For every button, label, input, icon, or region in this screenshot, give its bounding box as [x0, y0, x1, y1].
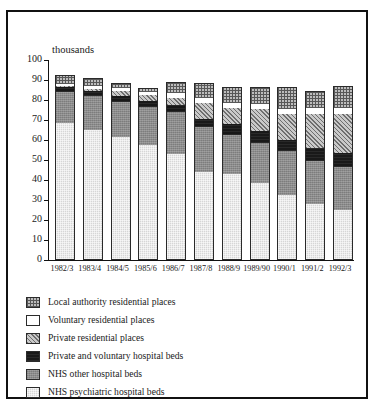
bar-segment[interactable]: [55, 87, 75, 92]
bar-segment[interactable]: [55, 75, 75, 84]
bar-segment[interactable]: [55, 92, 75, 123]
y-tick-label: 50: [18, 153, 42, 165]
bar-segment[interactable]: [111, 83, 131, 88]
y-tick-mark: [44, 120, 49, 121]
y-tick-label: 40: [18, 173, 42, 185]
bar-segment[interactable]: [138, 145, 158, 260]
legend-label: Private and voluntary hospital beds: [48, 350, 183, 362]
bar-segment[interactable]: [333, 108, 353, 114]
bar-segment[interactable]: [83, 130, 103, 260]
legend-swatch-icon: [26, 315, 40, 326]
bar-segment[interactable]: [222, 174, 242, 260]
legend-item[interactable]: Local authority residential places: [26, 293, 326, 311]
bar-segment[interactable]: [194, 83, 214, 98]
y-tick-mark: [44, 160, 49, 161]
x-axis-label: 1992/3: [326, 263, 354, 274]
y-tick-mark: [44, 100, 49, 101]
y-tick-70: 70: [48, 120, 53, 121]
bar-segment[interactable]: [83, 86, 103, 89]
y-tick-label: 90: [18, 73, 42, 85]
bar-segment[interactable]: [111, 88, 131, 91]
legend-item[interactable]: NHS psychiatric hospital beds: [26, 383, 326, 401]
bar-segment[interactable]: [305, 91, 325, 108]
legend-label: Private residential places: [48, 332, 144, 344]
x-axis-label: 1985/6: [131, 263, 159, 274]
bar-segment[interactable]: [83, 89, 103, 91]
y-tick-label: 100: [18, 53, 42, 65]
bar-segment[interactable]: [222, 87, 242, 103]
legend-swatch-icon: [26, 351, 40, 362]
bar-segment[interactable]: [166, 112, 186, 154]
bar-segment[interactable]: [83, 96, 103, 130]
bar-segment[interactable]: [166, 93, 186, 98]
bar-segment[interactable]: [305, 108, 325, 114]
bar-segment[interactable]: [305, 148, 325, 161]
bar-segment[interactable]: [305, 161, 325, 204]
y-tick-label: 30: [18, 193, 42, 205]
bar-segment[interactable]: [333, 114, 353, 153]
plot-area: 0102030405060708090100: [48, 60, 354, 260]
bar-segment[interactable]: [111, 91, 131, 96]
bar-segment[interactable]: [55, 123, 75, 260]
bar-segment[interactable]: [277, 140, 297, 151]
bar-segment[interactable]: [111, 137, 131, 260]
bar-segment[interactable]: [277, 109, 297, 114]
bar-segment[interactable]: [250, 104, 270, 109]
legend-label: Local authority residential places: [48, 296, 176, 308]
bar-segment[interactable]: [111, 102, 131, 137]
y-tick-0: 0: [48, 260, 53, 261]
bar-segment[interactable]: [333, 86, 353, 108]
bar-segment[interactable]: [250, 109, 270, 131]
bar-segment[interactable]: [138, 107, 158, 145]
y-tick-mark: [44, 200, 49, 201]
bar-segment[interactable]: [55, 84, 75, 86]
legend-item[interactable]: Private and voluntary hospital beds: [26, 347, 326, 365]
bar-segment[interactable]: [166, 82, 186, 93]
bar-segment[interactable]: [138, 95, 158, 101]
y-tick-40: 40: [48, 180, 53, 181]
bar-segment[interactable]: [55, 86, 75, 87]
y-tick-90: 90: [48, 80, 53, 81]
bar-segment[interactable]: [83, 78, 103, 86]
bar-segment[interactable]: [305, 204, 325, 260]
x-axis-labels: 1982/31983/41984/51985/61986/71987/81988…: [48, 263, 354, 277]
chart-legend: Local authority residential placesVolunt…: [26, 293, 326, 401]
bar-segment[interactable]: [277, 87, 297, 109]
bar-segment[interactable]: [194, 98, 214, 103]
bar-segment[interactable]: [138, 101, 158, 107]
bar-segment[interactable]: [250, 87, 270, 104]
legend-item[interactable]: Private residential places: [26, 329, 326, 347]
bar-segment[interactable]: [250, 131, 270, 143]
bar-segment[interactable]: [222, 135, 242, 174]
y-tick-mark: [44, 140, 49, 141]
bar-segment[interactable]: [111, 96, 131, 102]
bar-segment[interactable]: [250, 143, 270, 183]
bar-segment[interactable]: [277, 195, 297, 260]
bar-segment[interactable]: [250, 183, 270, 260]
chart-figure-frame: thousands 0102030405060708090100 1982/31…: [6, 10, 368, 399]
bar-segment[interactable]: [194, 127, 214, 172]
bar-segment[interactable]: [222, 108, 242, 124]
x-axis-line: [48, 260, 354, 261]
legend-item[interactable]: Voluntary residential places: [26, 311, 326, 329]
bar-segment[interactable]: [166, 98, 186, 105]
bar-segment[interactable]: [277, 114, 297, 140]
legend-item[interactable]: NHS other hospital beds: [26, 365, 326, 383]
bar-segment[interactable]: [194, 103, 214, 119]
bar-segment[interactable]: [166, 105, 186, 112]
bar-segment[interactable]: [138, 92, 158, 95]
bar-segment[interactable]: [333, 167, 353, 210]
x-axis-label: 1989/90: [243, 263, 271, 274]
bar-segment[interactable]: [305, 114, 325, 148]
bar-segment[interactable]: [166, 154, 186, 260]
bar-segment[interactable]: [138, 88, 158, 92]
bar-segment[interactable]: [277, 151, 297, 195]
bar-segment[interactable]: [83, 91, 103, 96]
bar-segment[interactable]: [222, 124, 242, 135]
legend-swatch-icon: [26, 297, 40, 308]
bar-segment[interactable]: [333, 153, 353, 167]
bar-segment[interactable]: [194, 172, 214, 260]
bar-segment[interactable]: [222, 103, 242, 108]
bar-segment[interactable]: [333, 210, 353, 260]
bar-segment[interactable]: [194, 119, 214, 127]
